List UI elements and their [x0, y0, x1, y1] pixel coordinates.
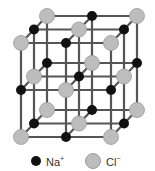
legend-item-cl: Cl− — [85, 153, 120, 169]
na-ion — [106, 85, 116, 95]
na-ion — [42, 58, 52, 68]
legend-label-na: Na+ — [46, 155, 64, 168]
legend-item-na: Na+ — [31, 153, 64, 169]
cl-ion — [85, 56, 100, 71]
na-ion — [87, 11, 97, 21]
cl-ion — [14, 36, 29, 51]
na-ion — [29, 25, 39, 35]
na-ion — [74, 72, 84, 82]
cl-ion — [27, 69, 42, 84]
na-ion — [132, 58, 142, 68]
na-ion — [87, 105, 97, 115]
cl-ion — [72, 116, 87, 131]
legend-label-cl: Cl− — [106, 155, 120, 168]
na-ion — [119, 119, 129, 129]
cl-ion — [40, 9, 55, 24]
cl-ion-icon — [85, 153, 101, 169]
cl-ion — [40, 103, 55, 118]
cl-ion — [130, 9, 145, 24]
nacl-lattice — [0, 0, 155, 171]
cl-ion — [72, 22, 87, 37]
na-ion — [16, 85, 26, 95]
na-ion — [119, 25, 129, 35]
cl-ion — [130, 103, 145, 118]
cl-ion — [14, 130, 29, 145]
na-ion-icon — [31, 156, 41, 166]
na-ion — [29, 119, 39, 129]
cl-ion — [117, 69, 132, 84]
cl-ion — [59, 83, 74, 98]
legend: Na+ Cl− — [0, 153, 155, 169]
cl-ion — [104, 36, 119, 51]
na-ion — [61, 132, 71, 142]
na-ion — [61, 38, 71, 48]
cl-ion — [104, 130, 119, 145]
